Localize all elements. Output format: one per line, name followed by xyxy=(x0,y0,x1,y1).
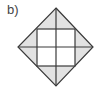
diamond-grid-figure xyxy=(0,0,96,90)
